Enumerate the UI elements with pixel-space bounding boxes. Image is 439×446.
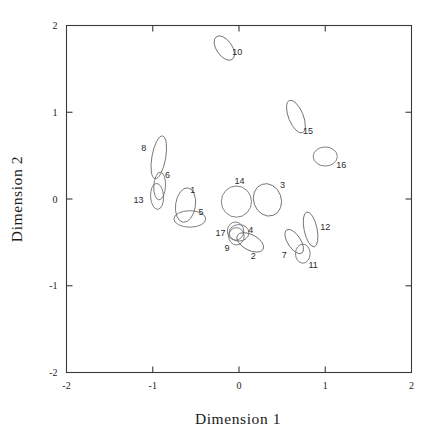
y-tick-label: 1: [53, 107, 58, 118]
ellipse-label: 6: [165, 170, 170, 180]
ellipse-label: 5: [199, 207, 204, 217]
axis-tick-labels: -2-1012-2-1012: [49, 20, 414, 391]
x-tick-label: 2: [409, 380, 414, 391]
x-tick-label: -1: [149, 380, 157, 391]
y-tick-label: 0: [53, 194, 58, 205]
plot-border: [67, 26, 412, 373]
ellipse-marker: [301, 211, 321, 248]
ellipse-markers: [148, 32, 337, 263]
ellipse-label: 16: [336, 160, 346, 170]
scatter-plot-figure: -2-1012-2-1012 1234567891011121314151617…: [0, 0, 439, 446]
ellipse-marker: [221, 186, 251, 217]
ellipse-label: 8: [141, 143, 146, 153]
ellipse-label: 12: [320, 222, 330, 232]
plot-canvas: -2-1012-2-1012 1234567891011121314151617…: [0, 0, 439, 446]
y-tick-label: -1: [49, 280, 57, 291]
y-tick-label: -2: [49, 367, 57, 378]
axis-ticks: [67, 26, 412, 373]
ellipse-label: 3: [280, 180, 285, 190]
ellipse-label: 13: [134, 195, 144, 205]
ellipse-label: 10: [232, 47, 242, 57]
x-tick-label: 1: [323, 380, 328, 391]
ellipse-label: 2: [251, 251, 256, 261]
ellipse-label: 9: [224, 243, 229, 253]
ellipse-label: 17: [215, 228, 225, 238]
x-tick-label: -2: [62, 380, 70, 391]
plot-frame: [67, 26, 412, 373]
ellipse-label: 7: [282, 250, 287, 260]
ellipse-label: 4: [248, 225, 253, 235]
ellipse-marker: [150, 183, 164, 210]
ellipse-label: 14: [234, 176, 244, 186]
ellipse-marker: [313, 147, 337, 166]
x-axis-title: Dimension 1: [195, 410, 281, 427]
ellipse-label: 1: [190, 185, 195, 195]
y-tick-label: 2: [53, 20, 58, 31]
ellipse-label: 11: [309, 260, 318, 270]
ellipse-label: 15: [303, 126, 313, 136]
y-axis-title: Dimension 2: [8, 156, 25, 242]
x-tick-label: 0: [237, 380, 242, 391]
